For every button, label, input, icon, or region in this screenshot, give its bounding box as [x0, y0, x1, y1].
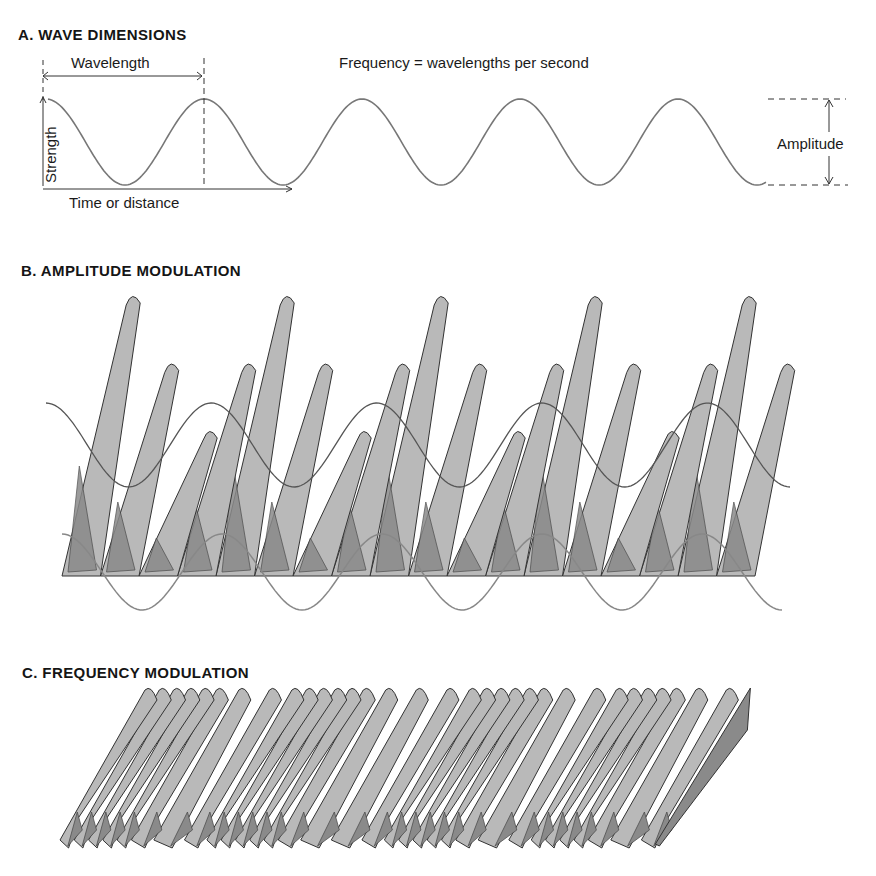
panel-c-title: C. FREQUENCY MODULATION [22, 664, 249, 681]
panel-a-wave-dimensions [40, 58, 848, 192]
panel-b-title: B. AMPLITUDE MODULATION [21, 262, 241, 279]
diagram-canvas [0, 0, 876, 876]
sine-wave [48, 99, 766, 185]
panel-c-frequency-modulation [60, 688, 750, 848]
panel-b-amplitude-modulation [46, 296, 795, 610]
